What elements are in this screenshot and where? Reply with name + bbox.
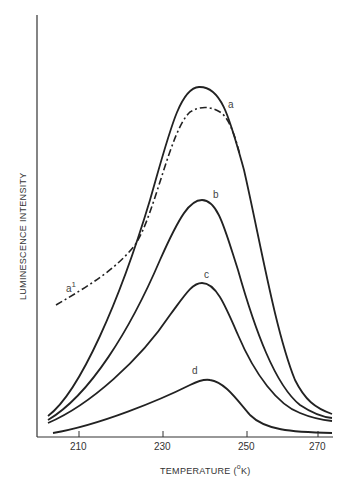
x-tick-270: 270	[309, 441, 326, 452]
luminescence-chart: 210 230 250 270 TEMPERATURE (oK) LUMINES…	[0, 0, 343, 483]
x-axis-title: TEMPERATURE (oK)	[160, 463, 251, 476]
curve-b	[48, 200, 332, 420]
curve-c	[48, 283, 332, 423]
curve-a	[48, 87, 332, 416]
label-a1: a1	[66, 280, 77, 294]
x-tick-250: 250	[238, 441, 255, 452]
x-tick-230: 230	[154, 441, 171, 452]
x-ticks	[79, 431, 318, 437]
label-c: c	[204, 269, 209, 280]
label-b: b	[213, 189, 219, 200]
label-d: d	[192, 365, 198, 376]
y-axis-title: LUMINESCENCE INTENSITY	[18, 172, 28, 300]
x-tick-210: 210	[70, 441, 87, 452]
label-a: a	[228, 99, 234, 110]
curve-d	[53, 380, 332, 433]
